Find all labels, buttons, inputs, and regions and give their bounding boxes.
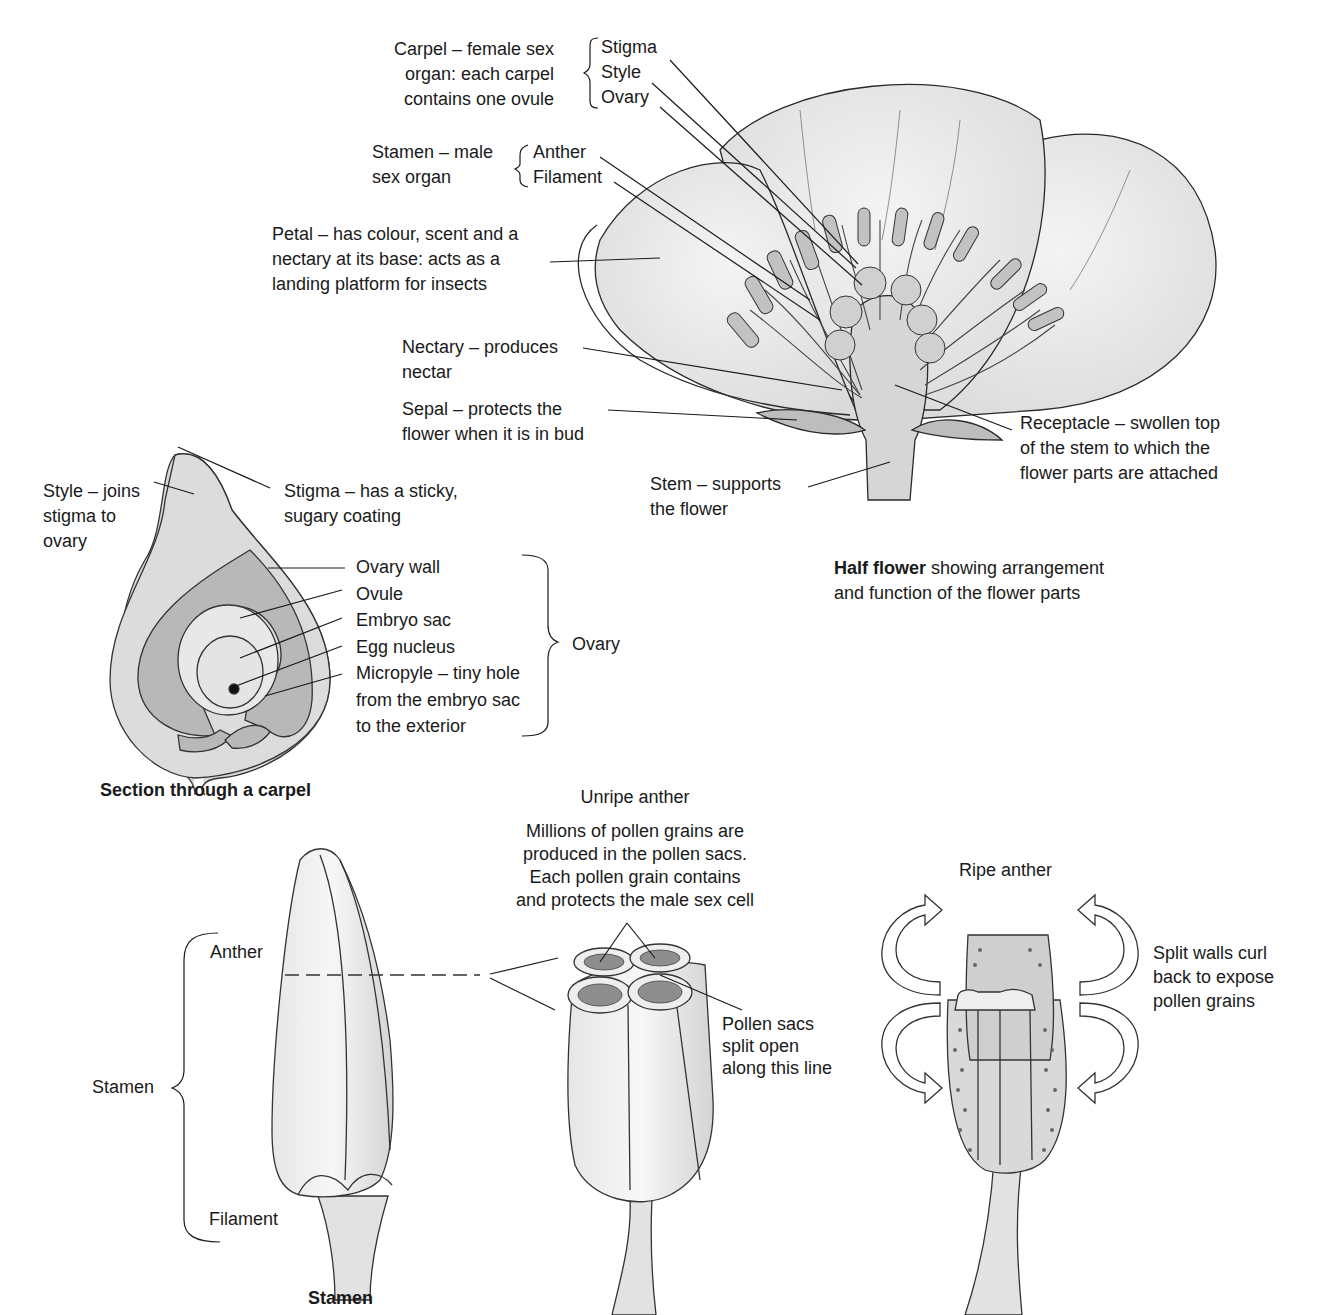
unripe-anther-title: Unripe anther [517, 785, 753, 810]
ripe-anther-title: Ripe anther [959, 858, 1052, 883]
label-micropyle-2: from the embryo sac [356, 687, 520, 714]
label-embryo-sac: Embryo sac [356, 607, 520, 634]
carpel-description: Carpel – female sex organ: each carpel c… [394, 37, 554, 112]
caption-bold: Half flower [834, 558, 926, 578]
curl-arrow-lower-left-icon [882, 1003, 942, 1103]
label-stamen-anther: Anther [210, 940, 263, 965]
caption-line-2: and function of the flower parts [834, 581, 1104, 606]
diagram-artwork [0, 0, 1336, 1315]
label-ovary-bracket: Ovary [572, 632, 620, 657]
unripe-anther-description: Millions of pollen grains are produced i… [477, 820, 793, 912]
label-sepal: Sepal – protects the flower when it is i… [402, 397, 584, 447]
unripe-desc-line: Each pollen grain contains [477, 866, 793, 889]
style-line: Style – joins [43, 479, 140, 504]
ripe-anther-description: Split walls curl back to expose pollen g… [1153, 941, 1274, 1013]
stamen-description: Stamen – male sex organ [372, 140, 493, 190]
label-stigma-section: Stigma – has a sticky, sugary coating [284, 479, 458, 529]
label-receptacle: Receptacle – swollen top of the stem to … [1020, 411, 1220, 486]
label-stamen-bracket: Stamen [92, 1075, 154, 1100]
label-petal: Petal – has colour, scent and a nectary … [272, 222, 518, 297]
receptacle-line: Receptacle – swollen top [1020, 411, 1220, 436]
style-line: stigma to [43, 504, 140, 529]
receptacle-line: of the stem to which the [1020, 436, 1220, 461]
label-micropyle: Micropyle – tiny hole [356, 660, 520, 687]
ripe-anther-illustration [947, 935, 1066, 1315]
label-filament: Filament [533, 165, 602, 190]
caption-line-1: Half flower showing arrangement [834, 556, 1104, 581]
sepal-right [912, 420, 1002, 440]
carpel-desc-line: Carpel – female sex [394, 37, 554, 62]
stigma-line: Stigma – has a sticky, [284, 479, 458, 504]
label-ovule: Ovule [356, 581, 520, 608]
carpel-desc-line: organ: each carpel [394, 62, 554, 87]
stamen-desc-line: Stamen – male [372, 140, 493, 165]
label-anther: Anther [533, 140, 602, 165]
stigma-line: sugary coating [284, 504, 458, 529]
stem-line: Stem – supports [650, 472, 781, 497]
label-stigma: Stigma [601, 35, 657, 60]
sepal-line: Sepal – protects the [402, 397, 584, 422]
unripe-desc-line: and protects the male sex cell [477, 889, 793, 912]
carpel-section-caption: Section through a carpel [100, 778, 311, 803]
petal-line: nectary at its base: acts as a [272, 247, 518, 272]
label-ovary: Ovary [601, 85, 657, 110]
pollen-sacs-line: split open [722, 1035, 832, 1057]
curl-arrow-upper-right-icon [1078, 895, 1138, 995]
receptacle-line: flower parts are attached [1020, 461, 1220, 486]
sepal-line: flower when it is in bud [402, 422, 584, 447]
nectary-line: nectar [402, 360, 558, 385]
label-stamen-filament: Filament [209, 1207, 278, 1232]
unripe-desc-line: produced in the pollen sacs. [477, 843, 793, 866]
petal-line: Petal – has colour, scent and a [272, 222, 518, 247]
stamen-illustration [272, 849, 480, 1300]
stamen-parts: Anther Filament [533, 140, 602, 190]
stamen-caption: Stamen [308, 1286, 373, 1311]
nectary-line: Nectary – produces [402, 335, 558, 360]
pollen-sacs-line: Pollen sacs [722, 1013, 832, 1035]
unripe-desc-line: Millions of pollen grains are [477, 820, 793, 843]
petal-line: landing platform for insects [272, 272, 518, 297]
label-nectary: Nectary – produces nectar [402, 335, 558, 385]
stamen-desc-line: sex organ [372, 165, 493, 190]
label-ovary-wall: Ovary wall [356, 554, 520, 581]
label-pollen-sacs: Pollen sacs split open along this line [722, 1013, 832, 1079]
curl-arrow-lower-right-icon [1078, 1003, 1138, 1103]
pollen-sacs-line: along this line [722, 1057, 832, 1079]
carpel-desc-line: contains one ovule [394, 87, 554, 112]
half-flower-caption: Half flower showing arrangement and func… [834, 556, 1104, 606]
ripe-desc-line: pollen grains [1153, 989, 1274, 1013]
label-style: Style [601, 60, 657, 85]
ovary-parts-list: Ovary wall Ovule Embryo sac Egg nucleus … [356, 554, 520, 740]
curl-arrow-upper-left-icon [882, 895, 942, 995]
ripe-desc-line: Split walls curl [1153, 941, 1274, 965]
stem-line: the flower [650, 497, 781, 522]
ripe-desc-line: back to expose [1153, 965, 1274, 989]
label-style-section: Style – joins stigma to ovary [43, 479, 140, 554]
label-egg-nucleus: Egg nucleus [356, 634, 520, 661]
unripe-anther-illustration [568, 944, 713, 1315]
caption-rest: showing arrangement [926, 558, 1104, 578]
carpel-parts: Stigma Style Ovary [601, 35, 657, 110]
label-micropyle-3: to the exterior [356, 713, 520, 740]
style-line: ovary [43, 529, 140, 554]
label-stem: Stem – supports the flower [650, 472, 781, 522]
